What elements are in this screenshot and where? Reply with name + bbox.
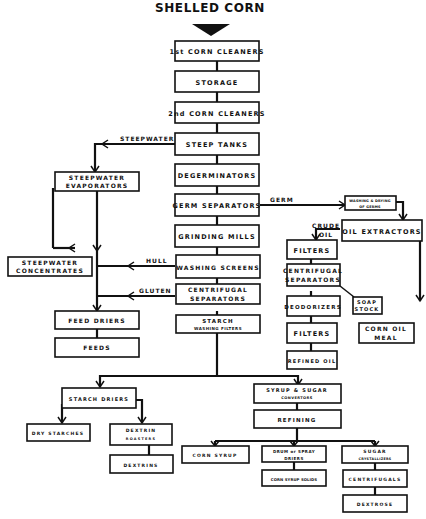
edge-label-steepwater: STEEPWATER <box>120 135 174 142</box>
node-steep-tanks: STEEP TANKS <box>175 133 259 155</box>
svg-text:EVAPORATORS: EVAPORATORS <box>66 182 129 189</box>
node-filters-1: FILTERS <box>287 240 337 259</box>
node-dry-starches: DRY STARCHES <box>27 424 90 441</box>
svg-text:REFINING: REFINING <box>277 417 316 423</box>
svg-text:FILTERS: FILTERS <box>294 247 331 255</box>
node-feed-driers: FEED DRIERS <box>55 311 139 329</box>
svg-text:STEEP TANKS: STEEP TANKS <box>186 141 248 149</box>
edge-label-gluten: GLUTEN <box>139 287 172 294</box>
svg-text:DEXTROSE: DEXTROSE <box>357 502 394 507</box>
svg-text:FILTERS: FILTERS <box>294 330 331 338</box>
svg-text:MEAL: MEAL <box>374 334 397 341</box>
svg-text:STEEPWATER: STEEPWATER <box>22 259 78 266</box>
edge-label-crude: CRUDE <box>312 222 340 229</box>
edge-label-germ: GERM <box>270 196 294 203</box>
node-starch-driers: STARCH DRIERS <box>62 388 136 408</box>
svg-text:WASHING SCREENS: WASHING SCREENS <box>176 264 260 271</box>
svg-text:SEPARATORS: SEPARATORS <box>190 295 246 302</box>
node-deodorizers: DEODORIZERS <box>284 296 342 316</box>
svg-text:REFINED OIL: REFINED OIL <box>288 358 337 364</box>
svg-text:DRIERS: DRIERS <box>284 456 304 461</box>
svg-text:FEED DRIERS: FEED DRIERS <box>68 317 125 324</box>
svg-text:SOAP: SOAP <box>357 299 377 305</box>
node-feeds: FEEDS <box>55 338 139 357</box>
svg-text:WASHING FILTERS: WASHING FILTERS <box>194 326 242 331</box>
svg-text:DEXTRIN: DEXTRIN <box>126 428 157 433</box>
node-centrifugal-separators-oil: CENTRIFUGAL SEPARATORS <box>283 264 343 286</box>
node-oil-extractors: OIL EXTRACTORS <box>342 220 422 241</box>
node-storage: STORAGE <box>175 71 259 92</box>
svg-text:STORAGE: STORAGE <box>196 79 239 87</box>
svg-text:CENTRIFUGAL: CENTRIFUGAL <box>188 286 248 293</box>
node-corn-oil-meal: CORN OIL MEAL <box>359 323 414 343</box>
node-drum-spray-driers: DRUM or SPRAY DRIERS <box>262 446 326 462</box>
svg-text:1st CORN CLEANERS: 1st CORN CLEANERS <box>169 48 264 56</box>
node-syrup-sugar-convertors: SYRUP & SUGAR CONVERTORS <box>254 384 341 403</box>
svg-text:SUGAR: SUGAR <box>363 449 387 454</box>
svg-text:DEODORIZERS: DEODORIZERS <box>284 304 342 310</box>
diagram-title: SHELLED CORN <box>155 1 265 15</box>
node-grinding-mills: GRINDING MILLS <box>175 225 259 247</box>
svg-text:CONVERTORS: CONVERTORS <box>281 396 312 400</box>
svg-text:STOCK: STOCK <box>355 306 380 312</box>
svg-text:ROASTERS: ROASTERS <box>126 437 156 441</box>
node-centrifugals: CENTRIFUGALS <box>343 470 407 487</box>
node-dextrose: DEXTROSE <box>343 495 407 512</box>
svg-text:OIL EXTRACTORS: OIL EXTRACTORS <box>342 228 422 236</box>
svg-text:2nd CORN CLEANERS: 2nd CORN CLEANERS <box>168 110 265 118</box>
svg-text:STARCH DRIERS: STARCH DRIERS <box>69 396 129 402</box>
corn-processing-flowchart: SHELLED CORN <box>0 0 426 519</box>
node-washing-screens: WASHING SCREENS <box>176 255 260 278</box>
node-steepwater-evaporators: STEEPWATER EVAPORATORS <box>55 172 139 191</box>
svg-text:STARCH: STARCH <box>202 318 234 324</box>
node-1st-corn-cleaners: 1st CORN CLEANERS <box>169 41 264 61</box>
svg-text:CORN SYRUP: CORN SYRUP <box>193 453 238 458</box>
node-2nd-corn-cleaners: 2nd CORN CLEANERS <box>168 102 265 123</box>
svg-text:DEXTRINS: DEXTRINS <box>123 463 158 468</box>
svg-text:STEEPWATER: STEEPWATER <box>69 174 125 181</box>
node-corn-syrup-solids: CORN SYRUP SOLIDS <box>262 470 326 486</box>
svg-text:DEGERMINATORS: DEGERMINATORS <box>178 172 257 180</box>
svg-text:DRY STARCHES: DRY STARCHES <box>32 431 84 436</box>
node-starch-washing-filters: STARCH WASHING FILTERS <box>176 315 260 333</box>
node-dextrin-roasters: DEXTRIN ROASTERS <box>110 424 172 445</box>
svg-text:DRUM or SPRAY: DRUM or SPRAY <box>273 449 315 454</box>
node-filters-2: FILTERS <box>287 323 337 343</box>
svg-text:CORN OIL: CORN OIL <box>365 325 407 332</box>
node-soap-stock: SOAP STOCK <box>353 297 382 314</box>
edge-label-oil: OIL <box>319 231 333 238</box>
svg-text:CENTRIFUGALS: CENTRIFUGALS <box>349 477 402 482</box>
svg-text:GRINDING MILLS: GRINDING MILLS <box>178 233 256 241</box>
svg-text:SEPARATORS: SEPARATORS <box>285 276 341 283</box>
node-dextrins: DEXTRINS <box>110 455 173 473</box>
svg-text:CORN SYRUP SOLIDS: CORN SYRUP SOLIDS <box>271 477 318 482</box>
svg-text:GERM SEPARATORS: GERM SEPARATORS <box>172 202 261 210</box>
svg-text:OF GERMS: OF GERMS <box>359 205 381 209</box>
node-degerminators: DEGERMINATORS <box>175 164 259 186</box>
node-washing-drying-germs: WASHING & DRYING OF GERMS <box>345 196 396 210</box>
node-refining: REFINING <box>254 410 341 428</box>
svg-text:FEEDS: FEEDS <box>83 344 111 351</box>
node-sugar-crystallizers: SUGAR CRYSTALLIZERS <box>342 446 408 463</box>
svg-text:SYRUP & SUGAR: SYRUP & SUGAR <box>266 387 328 393</box>
edge-label-hull: HULL <box>146 257 168 264</box>
svg-text:CONCENTRATES: CONCENTRATES <box>16 267 84 274</box>
node-refined-oil: REFINED OIL <box>287 351 337 369</box>
node-corn-syrup: CORN SYRUP <box>182 446 249 463</box>
svg-text:CENTRIFUGAL: CENTRIFUGAL <box>283 267 343 274</box>
node-centrifugal-separators: CENTRIFUGAL SEPARATORS <box>176 284 260 304</box>
node-steepwater-concentrates: STEEPWATER CONCENTRATES <box>8 257 92 276</box>
svg-text:CRYSTALLIZERS: CRYSTALLIZERS <box>359 457 392 461</box>
big-down-arrow-icon <box>192 24 230 36</box>
node-germ-separators: GERM SEPARATORS <box>172 194 261 216</box>
svg-text:WASHING & DRYING: WASHING & DRYING <box>349 199 390 203</box>
